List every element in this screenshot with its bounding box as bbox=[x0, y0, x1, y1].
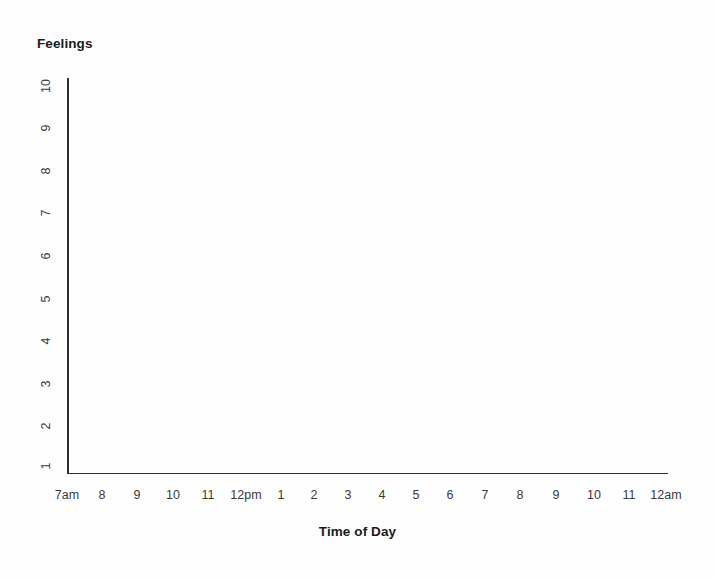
y-tick-label: 4 bbox=[35, 331, 57, 351]
plot-area[interactable] bbox=[68, 78, 668, 473]
x-tick-label: 8 bbox=[99, 488, 106, 502]
chart-screenshot: Feelings 10 9 8 7 6 5 4 3 2 1 7am 8 9 10… bbox=[0, 0, 715, 578]
y-tick-label: 10 bbox=[35, 76, 57, 96]
x-tick-label: 9 bbox=[134, 488, 141, 502]
x-tick-label: 12am bbox=[650, 488, 681, 502]
x-tick-label: 7am bbox=[55, 488, 79, 502]
x-tick-label: 1 bbox=[278, 488, 285, 502]
x-tick-label: 10 bbox=[587, 488, 601, 502]
x-tick-label: 6 bbox=[447, 488, 454, 502]
x-tick-label: 3 bbox=[345, 488, 352, 502]
y-axis-line bbox=[67, 78, 69, 474]
y-tick-label: 1 bbox=[35, 456, 57, 476]
x-tick-label: 10 bbox=[166, 488, 180, 502]
x-tick-label: 4 bbox=[379, 488, 386, 502]
x-tick-label: 5 bbox=[413, 488, 420, 502]
x-axis-title: Time of Day bbox=[0, 524, 715, 539]
x-axis-line bbox=[67, 473, 668, 475]
y-tick-label: 7 bbox=[35, 203, 57, 223]
x-tick-label: 8 bbox=[517, 488, 524, 502]
x-tick-label: 7 bbox=[482, 488, 489, 502]
y-tick-label: 3 bbox=[35, 374, 57, 394]
x-tick-label: 12pm bbox=[230, 488, 261, 502]
y-tick-label: 2 bbox=[35, 416, 57, 436]
x-tick-label: 11 bbox=[623, 488, 636, 502]
y-tick-label: 9 bbox=[35, 118, 57, 138]
x-tick-label: 11 bbox=[202, 488, 215, 502]
x-tick-label: 2 bbox=[311, 488, 318, 502]
x-axis-tick-labels: 7am 8 9 10 11 12pm 1 2 3 4 5 6 7 8 9 10 … bbox=[0, 488, 715, 508]
x-tick-label: 9 bbox=[553, 488, 560, 502]
y-tick-label: 8 bbox=[35, 161, 57, 181]
y-tick-label: 6 bbox=[35, 246, 57, 266]
y-tick-label: 5 bbox=[35, 289, 57, 309]
